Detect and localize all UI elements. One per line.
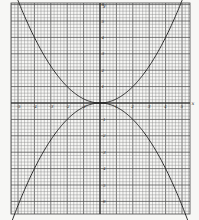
x-tick-label: 2 xyxy=(130,104,134,109)
y-tick-label: -1 xyxy=(102,117,106,122)
y-tick-label: -4 xyxy=(102,166,106,171)
y-tick-label: -2 xyxy=(102,133,106,138)
y-tick-label: 4 xyxy=(101,35,105,40)
y-tick-label: 1 xyxy=(102,84,105,89)
x-axis-label: x xyxy=(192,100,195,106)
y-tick-label: -6 xyxy=(102,199,106,204)
y-tick-label: 3 xyxy=(102,51,105,56)
y-tick-label: -5 xyxy=(102,183,106,188)
x-tick-label: 3 xyxy=(148,104,151,109)
y-tick-label: -3 xyxy=(102,150,106,155)
x-tick-label: -5 xyxy=(17,104,21,109)
x-tick-label: 5 xyxy=(181,104,184,109)
parabola-graph: -5-4-3-2-112345-6-5-4-3-2-1123456 x y xyxy=(0,0,199,220)
x-tick-label: -4 xyxy=(33,104,37,109)
x-tick-label: 4 xyxy=(163,104,167,109)
y-tick-label: 5 xyxy=(102,19,105,24)
y-tick-label: 2 xyxy=(101,68,105,73)
x-tick-label: -2 xyxy=(66,104,70,109)
y-axis-label: y xyxy=(102,2,106,9)
x-tick-label: -3 xyxy=(49,104,53,109)
